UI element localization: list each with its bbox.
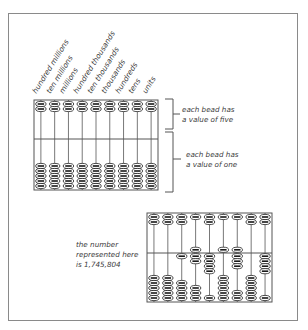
lower-bead-caption: each bead has a value of one [186,150,239,169]
five-bead-bracket [165,99,173,129]
example-caption-line-3: is 1,745,804 [76,260,138,270]
upper-caption-line-1: each bead has [182,105,235,115]
example-caption-line-2: represented here [76,250,138,260]
abacus-drawing [0,0,308,330]
one-bead-bracket [165,132,173,192]
abacus-diagram: hundred millionsten millionsmillionshund… [0,0,308,330]
lower-caption-line-1: each bead has [186,150,239,160]
example-caption-line-1: the number [76,240,138,250]
lower-caption-line-2: a value of one [186,160,239,170]
example-caption: the number represented here is 1,745,804 [76,240,138,270]
upper-bead-caption: each bead has a value of five [182,105,235,124]
upper-caption-line-2: a value of five [182,115,235,125]
